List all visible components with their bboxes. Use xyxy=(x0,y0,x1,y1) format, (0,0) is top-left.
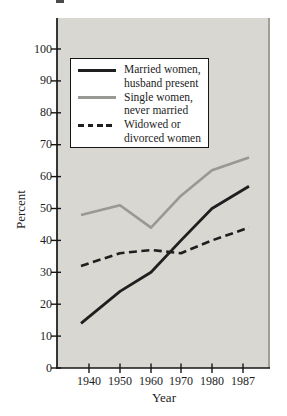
y-tick-label: 20 xyxy=(0,297,52,312)
legend-label-line: never married xyxy=(124,104,193,118)
legend-label-line: Married women, xyxy=(124,63,201,77)
legend-label-line: divorced women xyxy=(124,132,201,146)
y-tick-label: 0 xyxy=(0,361,52,376)
y-axis-title: Percent xyxy=(13,179,28,241)
y-tick-label: 90 xyxy=(0,73,52,88)
legend-label-single: Single women, never married xyxy=(124,91,193,119)
legend-line-sample-single xyxy=(78,96,116,99)
line-chart-figure: 0102030405060708090100194019501960197019… xyxy=(0,0,287,416)
y-tick-label: 80 xyxy=(0,105,52,120)
legend: Married women, husband present Single wo… xyxy=(70,58,209,148)
legend-item-married: Married women, husband present xyxy=(78,63,208,91)
legend-label-married: Married women, husband present xyxy=(124,63,201,91)
y-tick-label: 70 xyxy=(0,137,52,152)
y-tick-label: 10 xyxy=(0,329,52,344)
legend-item-single: Single women, never married xyxy=(78,91,208,119)
legend-label-line: husband present xyxy=(124,77,201,91)
legend-line-sample-widowed xyxy=(78,124,116,127)
x-tick-label: 1987 xyxy=(225,374,261,389)
legend-item-widowed: Widowed or divorced women xyxy=(78,118,208,146)
legend-label-line: Single women, xyxy=(124,91,193,105)
legend-line-sample-married xyxy=(78,69,116,72)
y-tick-label: 100 xyxy=(0,42,52,57)
x-axis-title: Year xyxy=(133,390,195,406)
y-tick-label: 30 xyxy=(0,265,52,280)
legend-label-widowed: Widowed or divorced women xyxy=(124,118,201,146)
legend-label-line: Widowed or xyxy=(124,118,201,132)
